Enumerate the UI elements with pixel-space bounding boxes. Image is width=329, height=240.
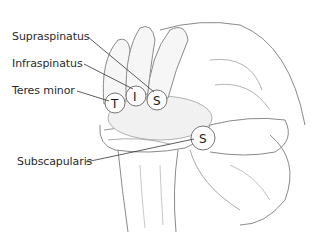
- tip-letter-t: T: [110, 97, 119, 111]
- label-infraspinatus: Infraspinatus: [12, 57, 83, 70]
- tip-letter-s-top: S: [153, 94, 161, 108]
- tip-letter-i: I: [133, 90, 137, 104]
- label-subscapularis: Subscapularis: [17, 155, 92, 168]
- rotator-cuff-diagram: T I S S Supraspinatus Infraspinatus Tere…: [0, 0, 329, 240]
- tip-letter-s-bottom: S: [199, 132, 207, 146]
- label-supraspinatus: Supraspinatus: [12, 30, 89, 43]
- label-teres-minor: Teres minor: [12, 84, 75, 97]
